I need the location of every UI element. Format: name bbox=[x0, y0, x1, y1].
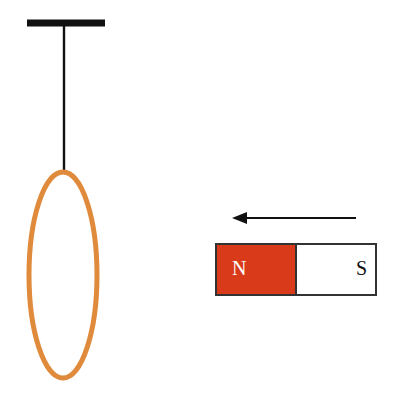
magnet-north-label: N bbox=[232, 257, 246, 279]
ceiling-support-bar bbox=[27, 20, 105, 27]
induction-diagram: N S bbox=[0, 0, 395, 397]
magnet-south-label: S bbox=[356, 257, 367, 279]
diagram-background bbox=[0, 0, 395, 397]
magnet-north-pole bbox=[216, 244, 296, 295]
physics-diagram-canvas: N S bbox=[0, 0, 395, 397]
